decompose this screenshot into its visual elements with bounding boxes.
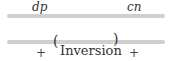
label-dp: dp	[32, 1, 47, 13]
label-cn: cn	[127, 1, 141, 13]
plus-sign-right: +	[129, 47, 139, 59]
top-chromosome-bar	[7, 14, 165, 18]
plus-sign-left: +	[36, 47, 46, 59]
inversion-paren-open: (	[53, 34, 58, 48]
inversion-label: Inversion	[60, 45, 122, 57]
